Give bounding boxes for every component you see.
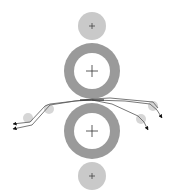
left-guide-roller-2 [23,113,33,123]
roller-diagram [0,0,171,194]
top-small-roller [78,12,106,40]
lower-big-roller [64,103,120,159]
upper-big-roller [64,43,120,99]
bottom-small-roller [78,162,106,190]
